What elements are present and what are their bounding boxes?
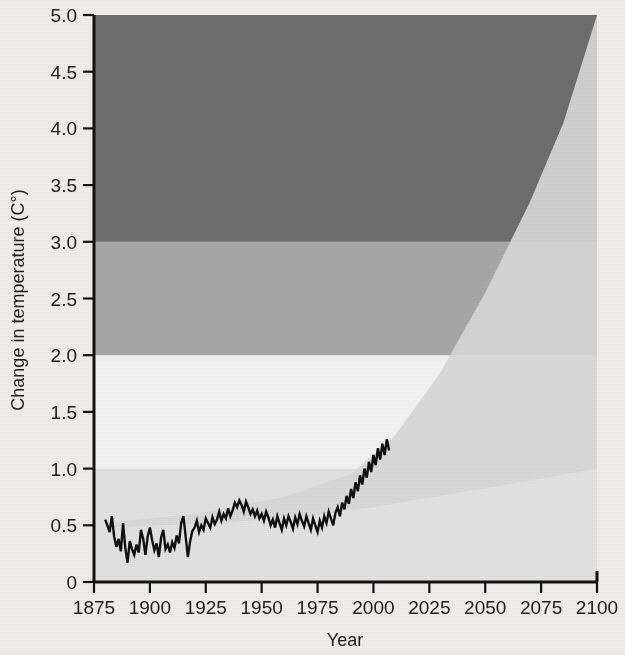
x-tick-label: 1875: [73, 597, 115, 618]
x-tick-label: 1950: [241, 597, 283, 618]
chart-canvas: 00.51.01.52.02.53.03.54.04.55.0 18751900…: [0, 0, 625, 655]
x-tick-label: 1925: [185, 597, 227, 618]
y-tick-label: 1.5: [51, 402, 77, 423]
x-tick-label: 2075: [520, 597, 562, 618]
y-tick-label: 0: [66, 572, 77, 593]
y-tick-label: 1.0: [51, 459, 77, 480]
x-tick-label: 1900: [129, 597, 171, 618]
x-tick-label: 2000: [352, 597, 394, 618]
y-tick-label: 4.0: [51, 118, 77, 139]
x-tick-label: 1975: [296, 597, 338, 618]
climate-projection-chart: 00.51.01.52.02.53.03.54.04.55.0 18751900…: [0, 0, 625, 655]
y-tick-label: 2.5: [51, 289, 77, 310]
y-tick-label: 4.5: [51, 62, 77, 83]
y-tick-label: 2.0: [51, 345, 77, 366]
y-axis-title: Change in temperature (C°): [8, 189, 28, 410]
y-tick-label: 3.5: [51, 175, 77, 196]
y-tick-label: 3.0: [51, 232, 77, 253]
x-tick-label: 2050: [464, 597, 506, 618]
severe-risk-band: [94, 15, 597, 242]
y-tick-label: 5.0: [51, 5, 77, 26]
x-axis-title: Year: [327, 630, 363, 650]
y-tick-label: 0.5: [51, 515, 77, 536]
x-tick-label: 2100: [576, 597, 618, 618]
x-tick-label: 2025: [408, 597, 450, 618]
